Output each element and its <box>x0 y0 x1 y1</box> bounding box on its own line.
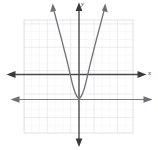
graph-figure: x y <box>0 0 158 150</box>
coordinate-plane-svg <box>0 0 158 150</box>
x-axis-label: x <box>148 70 151 77</box>
y-axis-label: y <box>81 1 84 8</box>
